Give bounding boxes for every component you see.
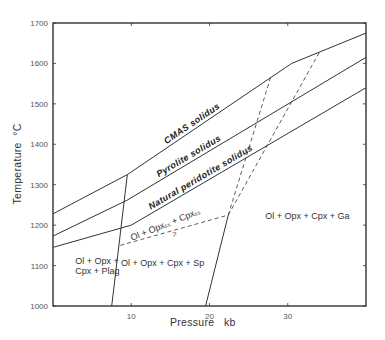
y-tick-label: 1300 <box>30 181 48 190</box>
region-label: ? <box>172 230 177 239</box>
spinel-garnet-boundary-line <box>206 215 229 306</box>
region-label: Ol + Opxₛₛ + Cpxₛₛ <box>129 206 201 243</box>
y-tick-label: 1100 <box>31 262 49 271</box>
y-tick-label: 1200 <box>30 221 48 230</box>
y-axis-title: Temperature °C <box>11 123 23 204</box>
y-tick-label: 1700 <box>30 19 48 28</box>
region-label: Cpx + Plag <box>75 266 119 276</box>
y-tick-label: 1400 <box>30 140 48 149</box>
y-tick-label: 1500 <box>30 100 48 109</box>
x-tick-label: 30 <box>283 312 292 321</box>
cmas-solidus-line <box>53 33 366 214</box>
region-label: Ol + Opx + Cpx + Sp <box>121 258 204 268</box>
phase-diagram: 10001100120013001400150016001700102030 C… <box>0 0 385 340</box>
y-tick-label: 1600 <box>30 59 48 68</box>
region-label: Ol + Opx + Cpx + Ga <box>265 211 349 221</box>
x-tick-label: 10 <box>127 312 136 321</box>
region-label: Ol + Opx + <box>75 256 119 266</box>
x-axis-title: Pressure kb <box>170 316 236 328</box>
plagioclase-spinel-boundary-line <box>112 175 128 306</box>
y-tick-label: 1000 <box>30 302 48 311</box>
